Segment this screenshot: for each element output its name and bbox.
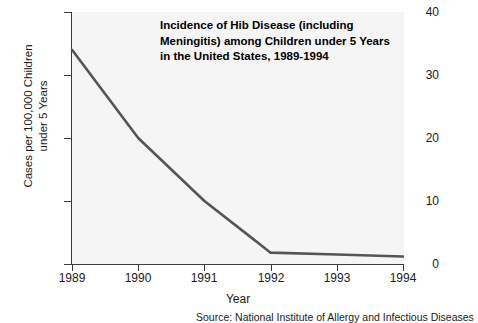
x-axis-tick-label-1990: 1990 — [111, 272, 165, 285]
x-axis-tick-label-1993: 1993 — [310, 272, 364, 285]
y-axis-tick-label-20: 20 — [383, 132, 439, 144]
y-axis-title: Cases per 100,000 Children under 5 Years — [16, 16, 56, 216]
y-axis-tick-20 — [64, 138, 71, 139]
y-axis-tick-label-30: 30 — [383, 69, 439, 81]
y-axis-tick-0 — [64, 264, 71, 265]
x-axis-title: Year — [72, 292, 404, 306]
y-axis-tick-label-10: 10 — [383, 195, 439, 207]
x-axis-tick-label-1989: 1989 — [45, 272, 99, 285]
y-axis-line — [71, 12, 72, 265]
chart-title-line-1: Incidence of Hib Disease (including — [160, 18, 420, 34]
chart-title: Incidence of Hib Disease (including Meni… — [160, 18, 420, 65]
x-axis-line — [71, 264, 404, 265]
x-axis-tick-label-1994: 1994 — [376, 272, 430, 285]
y-axis-tick-10 — [64, 201, 71, 202]
chart-title-line-3: in the United States, 1989-1994 — [160, 49, 420, 65]
y-axis-title-line-2: under 5 Years — [36, 81, 51, 152]
y-axis-title-line-1: Cases per 100,000 Children — [21, 44, 36, 187]
y-axis-tick-30 — [64, 75, 71, 76]
y-axis-tick-40 — [64, 12, 71, 13]
x-axis-tick-label-1991: 1991 — [177, 272, 231, 285]
source-note: Source: National Institute of Allergy an… — [196, 311, 478, 323]
y-axis-tick-label-40: 40 — [383, 6, 439, 18]
x-axis-tick-label-1992: 1992 — [244, 272, 298, 285]
y-axis-tick-label-0: 0 — [383, 258, 439, 270]
chart-title-line-2: Meningitis) among Children under 5 Years — [160, 34, 420, 50]
